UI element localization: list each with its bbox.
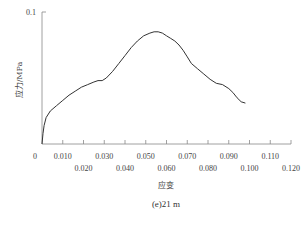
x-tick-labels-upper: 00.0100.0300.0500.0700.0900.110	[33, 152, 279, 161]
x-tick-label: 0.080	[199, 164, 217, 173]
x-ticks	[63, 140, 291, 144]
y-tick-label-top: 0.1	[26, 8, 36, 17]
x-tick-label: 0.120	[282, 164, 300, 173]
x-tick-label: 0.030	[95, 152, 113, 161]
y-axis-title: 应力/MPa	[14, 61, 24, 98]
x-axis-title: 应变	[158, 180, 174, 190]
x-tick-label: 0.050	[137, 152, 155, 161]
x-tick-labels-lower: 0.0200.0400.0600.0800.1000.120	[75, 164, 301, 173]
x-tick-label: 0.010	[54, 152, 72, 161]
x-tick-label: 0.110	[261, 152, 279, 161]
x-tick-label: 0.070	[178, 152, 196, 161]
stress-strain-chart: 00.0100.0300.0500.0700.0900.110 0.0200.0…	[0, 0, 308, 225]
x-tick-label: 0.060	[158, 164, 176, 173]
x-tick-label: 0.040	[116, 164, 134, 173]
axes	[42, 12, 291, 144]
x-tick-label: 0.100	[241, 164, 259, 173]
x-tick-label: 0.090	[220, 152, 238, 161]
x-tick-label: 0.020	[75, 164, 93, 173]
x-tick-label: 0	[33, 152, 37, 161]
chart-caption: (e)21 m	[152, 199, 180, 209]
stress-strain-curve	[42, 32, 245, 144]
